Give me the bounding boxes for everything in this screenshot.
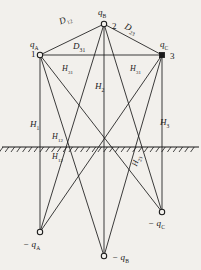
label-node-2: 2 [112, 22, 117, 31]
label-node-3: 3 [170, 52, 175, 61]
figure-canvas: qA qB qC 1 2 3 − qA − qB − qC D12 D23 D3… [0, 0, 201, 270]
ground-hatch [46, 147, 50, 152]
label-q-b: qB [98, 8, 106, 19]
ground-hatch [11, 147, 15, 152]
ground-hatch [75, 147, 79, 152]
label-q-c: qC [160, 40, 168, 51]
label-h-3: H3 [160, 118, 170, 129]
label-node-1: 1 [31, 50, 36, 59]
node-marker-conductor-a [37, 52, 42, 57]
ground-hatch [28, 147, 32, 152]
ground-hatch [109, 147, 113, 152]
ground-hatch [86, 147, 90, 152]
ground-hatch [23, 147, 27, 152]
ground-hatch [0, 147, 3, 152]
ground-hatch [185, 147, 189, 152]
ground-hatch [34, 147, 38, 152]
ground-hatch [144, 147, 148, 152]
ground-hatch [138, 147, 142, 152]
node-marker-conductor-c [159, 52, 164, 57]
label-h-12-below: H12 [52, 153, 63, 164]
node-marker-image-charge-a [37, 229, 42, 234]
node-marker-image-charge-b [101, 253, 106, 258]
ground-hatch [150, 147, 154, 152]
label-h-12-above: H12 [52, 133, 63, 144]
edge-1-2 [40, 24, 104, 55]
edge-2-img3 [104, 24, 162, 212]
node-marker-conductor-b [101, 21, 106, 26]
ground-hatch [167, 147, 171, 152]
node-marker-image-charge-c [159, 209, 164, 214]
ground-hatch [5, 147, 9, 152]
label-neg-q-a: − qA [23, 240, 40, 251]
ground-hatch [179, 147, 183, 152]
ground-hatch [191, 147, 195, 152]
ground-plane-group [0, 147, 199, 152]
label-h-2: H2 [95, 82, 105, 93]
ground-hatch [121, 147, 125, 152]
ground-hatch [173, 147, 177, 152]
ground-hatch [156, 147, 160, 152]
ground-hatch [115, 147, 119, 152]
label-neg-q-c: − qC [148, 219, 165, 230]
label-h-1: H1 [30, 120, 40, 131]
label-h-31-right: H31 [130, 65, 141, 76]
label-neg-q-b: − qB [112, 253, 129, 264]
ground-hatch [17, 147, 21, 152]
label-h-31-left: H31 [62, 65, 73, 76]
ground-hatch [81, 147, 85, 152]
ground-hatch [127, 147, 131, 152]
ground-hatch [40, 147, 44, 152]
label-d-31: D31 [73, 42, 85, 53]
